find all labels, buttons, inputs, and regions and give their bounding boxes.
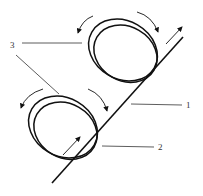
label-3: 3 — [10, 40, 15, 50]
inclined-line — [52, 37, 183, 183]
leader-line-1 — [131, 104, 182, 105]
rotation-arrow-icon — [21, 89, 43, 108]
rotation-arrow-icon — [137, 12, 158, 32]
label-2: 2 — [158, 142, 163, 152]
leader-line-2 — [102, 146, 154, 147]
motion-arrow-icon — [63, 137, 80, 155]
top-ring — [77, 7, 169, 94]
label-1: 1 — [186, 100, 191, 110]
rotation-arrow-icon — [78, 16, 93, 33]
bottom-ring — [17, 84, 109, 171]
leader-line-3-bottom — [16, 55, 59, 94]
rotation-arrow-icon — [88, 89, 107, 111]
diagram-canvas: 3 1 2 — [0, 0, 203, 196]
